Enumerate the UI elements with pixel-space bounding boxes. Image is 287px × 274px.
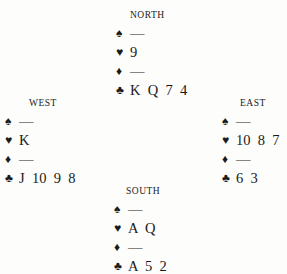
east-diamonds: ♦— bbox=[222, 150, 280, 169]
north-hand: NORTH ♠— ♥9 ♦— ♣K Q 7 4 bbox=[116, 10, 187, 100]
spade-icon: ♠ bbox=[114, 202, 128, 217]
heart-icon: ♥ bbox=[222, 133, 236, 148]
heart-icon: ♥ bbox=[5, 133, 19, 148]
west-label: WEST bbox=[29, 98, 75, 108]
west-spades: ♠— bbox=[5, 112, 75, 131]
west-hand: WEST ♠— ♥K ♦— ♣J 10 9 8 bbox=[5, 98, 75, 188]
east-hearts: ♥10 8 7 bbox=[222, 131, 280, 150]
diamond-icon: ♦ bbox=[5, 152, 19, 167]
south-clubs: ♣A 5 2 bbox=[114, 257, 167, 274]
east-label: EAST bbox=[240, 98, 280, 108]
diamond-icon: ♦ bbox=[222, 152, 236, 167]
north-label: NORTH bbox=[130, 10, 187, 20]
south-diamonds: ♦— bbox=[114, 238, 167, 257]
spade-icon: ♠ bbox=[116, 26, 130, 41]
heart-icon: ♥ bbox=[114, 221, 128, 236]
west-diamonds: ♦— bbox=[5, 150, 75, 169]
south-label: SOUTH bbox=[126, 186, 167, 196]
spade-icon: ♠ bbox=[222, 114, 236, 129]
club-icon: ♣ bbox=[222, 171, 236, 186]
east-hand: EAST ♠— ♥10 8 7 ♦— ♣6 3 bbox=[222, 98, 280, 188]
north-diamonds: ♦— bbox=[116, 62, 187, 81]
north-hearts: ♥9 bbox=[116, 43, 187, 62]
north-clubs: ♣K Q 7 4 bbox=[116, 81, 187, 100]
west-hearts: ♥K bbox=[5, 131, 75, 150]
south-hearts: ♥A Q bbox=[114, 219, 167, 238]
east-clubs: ♣6 3 bbox=[222, 169, 280, 188]
spade-icon: ♠ bbox=[5, 114, 19, 129]
south-spades: ♠— bbox=[114, 200, 167, 219]
north-spades: ♠— bbox=[116, 24, 187, 43]
west-clubs: ♣J 10 9 8 bbox=[5, 169, 75, 188]
diamond-icon: ♦ bbox=[116, 64, 130, 79]
club-icon: ♣ bbox=[5, 171, 19, 186]
heart-icon: ♥ bbox=[116, 45, 130, 60]
diamond-icon: ♦ bbox=[114, 240, 128, 255]
south-hand: SOUTH ♠— ♥A Q ♦— ♣A 5 2 bbox=[114, 186, 167, 274]
club-icon: ♣ bbox=[114, 259, 128, 274]
club-icon: ♣ bbox=[116, 83, 130, 98]
east-spades: ♠— bbox=[222, 112, 280, 131]
